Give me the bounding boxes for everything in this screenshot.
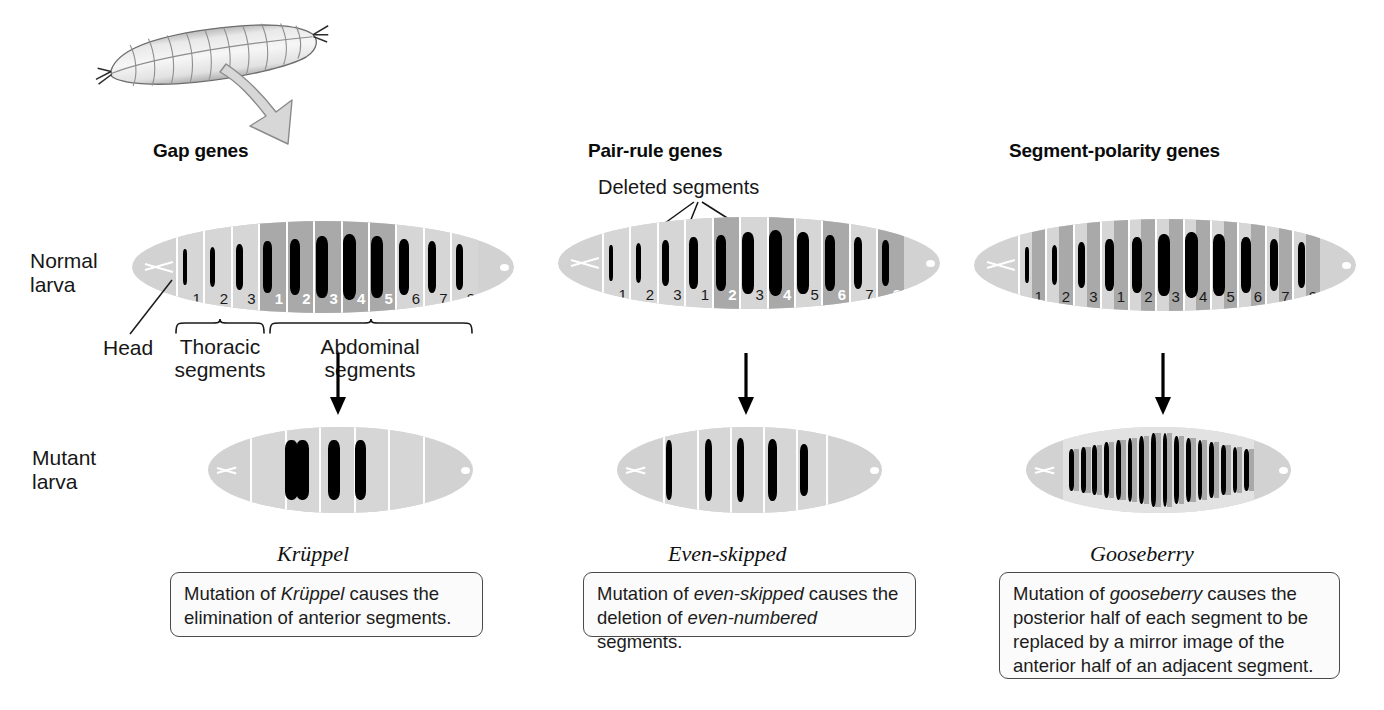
- segment-number: 3: [330, 291, 338, 306]
- segment-divider: [319, 427, 321, 513]
- column-header-segment-polarity-genes: Segment-polarity genes: [1009, 140, 1220, 162]
- segment-divider: [730, 427, 732, 513]
- column-header-gap-genes: Gap genes: [153, 140, 248, 162]
- denticle-band: [371, 236, 383, 297]
- larva-body: 12312345678: [974, 219, 1356, 311]
- gene-name-kruppel: Krüppel: [277, 541, 349, 567]
- mirror-image-half: [1249, 449, 1254, 490]
- pointer-arrow-to-gap-genes: [218, 60, 328, 150]
- denticle-band: [1105, 239, 1114, 290]
- segment-number: 3: [673, 287, 681, 302]
- gene-name-gooseberry: Gooseberry: [1090, 541, 1194, 567]
- denticle-band: [742, 232, 754, 293]
- segment-divider: [423, 221, 425, 313]
- segment-number: 3: [1172, 289, 1180, 304]
- segment-number: 4: [357, 291, 365, 306]
- segment-divider: [258, 221, 260, 313]
- denticle-band: [737, 438, 744, 502]
- denticle-band: [183, 249, 187, 285]
- denticle-band: [854, 237, 863, 288]
- column-header-pair-rule-genes: Pair-rule genes: [588, 140, 722, 162]
- denticle-band: [290, 239, 300, 295]
- caption-eve-pre: Mutation of: [597, 583, 694, 604]
- label-abdominal-line1: Abdominal: [295, 335, 445, 358]
- caption-box-kruppel: Mutation of Krüppel causes the eliminati…: [170, 572, 483, 637]
- row-label-mutant-larva: Mutant larva: [32, 446, 96, 493]
- denticle-band: [609, 245, 613, 281]
- posterior-spiracle-mark: [500, 264, 509, 271]
- denticle-band: [316, 236, 328, 297]
- segment-divider: [629, 217, 631, 309]
- head-leader-line: [120, 278, 180, 340]
- mirror-image-half: [1074, 449, 1079, 490]
- larva-body: [208, 427, 473, 513]
- denticle-band: [1132, 237, 1142, 293]
- denticle-band: [1139, 436, 1144, 505]
- segment-number: 6: [1254, 289, 1262, 304]
- denticle-band: [399, 239, 409, 295]
- normal-larva-pair-rule-genes: 12312345678: [558, 217, 940, 309]
- segment-divider: [1210, 219, 1212, 311]
- mirror-image-half: [1144, 436, 1149, 505]
- mirror-image-half: [1167, 433, 1172, 506]
- posterior-spiracle-mark: [870, 467, 879, 474]
- mirror-image-half: [1085, 447, 1090, 493]
- denticle-band: [428, 241, 437, 292]
- denticle-band: [1213, 234, 1225, 295]
- segment-divider: [876, 217, 878, 309]
- denticle-band: [1116, 440, 1121, 500]
- segment-divider: [657, 217, 659, 309]
- denticle-band: [1151, 433, 1156, 506]
- segment-divider: [1073, 219, 1075, 311]
- segment-number: 7: [439, 291, 447, 306]
- larva-body: 12312345678: [558, 217, 940, 309]
- denticle-band: [662, 240, 669, 286]
- segment-number: 2: [1144, 289, 1152, 304]
- label-deleted-segments: Deleted segments: [598, 176, 759, 199]
- denticle-band: [1128, 438, 1133, 502]
- segment-number: 1: [1034, 289, 1042, 304]
- label-head: Head: [103, 336, 153, 359]
- mirror-image-half: [1237, 447, 1242, 493]
- row-label-normal-line2: larva: [30, 273, 98, 297]
- label-abdominal-line2: segments: [295, 358, 445, 381]
- segment-divider: [423, 427, 425, 513]
- label-thoracic-line2: segments: [172, 358, 268, 381]
- denticle-band: [705, 439, 712, 501]
- segment-divider: [849, 217, 851, 309]
- denticle-band: [1270, 239, 1279, 290]
- segment-divider: [368, 221, 370, 313]
- denticle-band: [1163, 433, 1168, 506]
- segment-number: 5: [384, 291, 392, 306]
- caption-box-even-skipped: Mutation of even-skipped causes the dele…: [583, 572, 916, 637]
- caption-gsb-pre: Mutation of: [1013, 583, 1110, 604]
- segment-divider: [796, 427, 798, 513]
- segment-divider: [739, 217, 741, 309]
- posterior-spiracle-mark: [461, 467, 470, 474]
- segment-number: 2: [1062, 289, 1070, 304]
- segment-number: 6: [412, 291, 420, 306]
- label-thoracic-line1: Thoracic: [172, 335, 268, 358]
- segment-divider: [794, 217, 796, 309]
- denticle-band: [1069, 449, 1074, 490]
- segment-number: 1: [192, 291, 200, 306]
- denticle-band: [636, 243, 642, 284]
- larva-body: [617, 427, 882, 513]
- denticle-band: [456, 244, 463, 290]
- mirror-image-half: [1132, 438, 1137, 502]
- denticle-band: [797, 232, 809, 293]
- segment-number: 2: [646, 287, 654, 302]
- posterior-spiracle-mark: [1342, 262, 1351, 269]
- denticle-band: [1221, 445, 1226, 495]
- denticle-band: [1244, 449, 1249, 490]
- denticle-band: [1052, 245, 1058, 286]
- label-abdominal-segments: Abdominal segments: [295, 335, 445, 381]
- segment-divider: [1018, 219, 1020, 311]
- segment-divider: [250, 427, 252, 513]
- row-label-mutant-line1: Mutant: [32, 446, 96, 470]
- segment-divider: [1045, 219, 1047, 311]
- denticle-band: [355, 440, 366, 500]
- segment-number: 8: [467, 291, 475, 306]
- denticle-band: [825, 235, 835, 291]
- segment-number: 8: [893, 287, 901, 302]
